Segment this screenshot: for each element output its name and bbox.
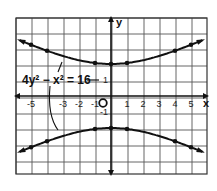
- data-point: [109, 126, 114, 131]
- tick-labels: -5-3-2-1123451-1xy: [27, 16, 210, 117]
- data-point: [189, 145, 194, 150]
- y-axis-label: y: [116, 16, 123, 28]
- x-tick-label: 2: [140, 99, 145, 109]
- x-axis-label: x: [203, 97, 210, 109]
- data-point: [109, 62, 114, 67]
- axes: [14, 16, 209, 176]
- x-tick-label: 5: [188, 99, 193, 109]
- y-tick-label: -1: [100, 107, 108, 117]
- data-point: [29, 42, 34, 47]
- data-point: [93, 127, 98, 132]
- data-point: [125, 61, 130, 66]
- hyperbola-graph: -5-3-2-1123451-1xy 4y² − x² = 16: [0, 0, 217, 191]
- origin-label: [99, 99, 107, 107]
- data-point: [173, 139, 178, 144]
- x-tick-label: -2: [75, 99, 83, 109]
- curve-arrow-icon: [196, 147, 205, 153]
- x-tick-label: 4: [172, 99, 177, 109]
- equation-label: 4y² − x² = 16: [22, 73, 91, 87]
- data-point: [173, 48, 178, 53]
- data-point: [189, 42, 194, 47]
- data-point: [45, 139, 50, 144]
- data-point: [45, 48, 50, 53]
- equation-leader-upper: [58, 62, 62, 72]
- curve-arrow-icon: [17, 39, 26, 45]
- y-axis-arrow-down-icon: [108, 170, 114, 176]
- x-tick-label: -1: [91, 99, 99, 109]
- x-tick-label: 1: [124, 99, 129, 109]
- y-axis-arrow-icon: [108, 16, 114, 22]
- curve-arrow-icon: [196, 39, 205, 45]
- data-point: [93, 61, 98, 66]
- x-tick-label: -3: [59, 99, 67, 109]
- y-tick-label: 1: [103, 75, 108, 85]
- x-tick-label: -5: [27, 99, 35, 109]
- equation-leader-lower: [49, 86, 58, 130]
- curve-arrow-icon: [17, 147, 26, 153]
- data-point: [29, 145, 34, 150]
- x-tick-label: 3: [156, 99, 161, 109]
- data-point: [125, 127, 130, 132]
